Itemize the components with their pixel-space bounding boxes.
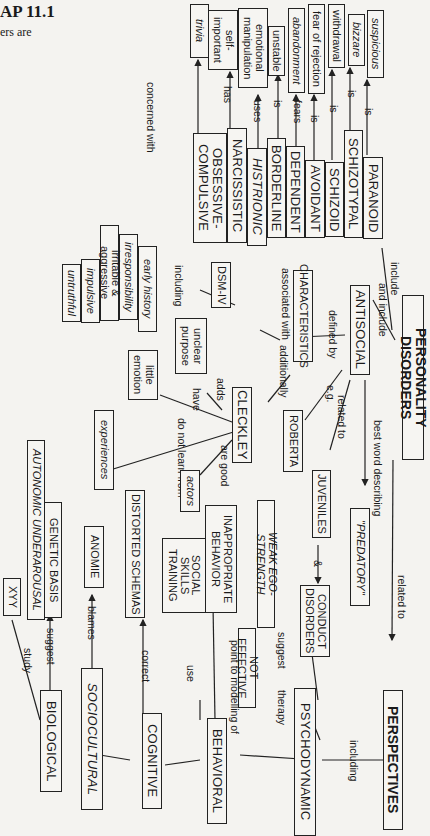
- node-perspectives: PERSPECTIVES: [383, 690, 403, 830]
- node-sociocultural: SOCIOCULTURAL: [81, 668, 103, 810]
- node-behavioral: BEHAVIORAL: [207, 718, 227, 824]
- node-untruthful: untruthful: [62, 264, 81, 322]
- node-avoidant: AVOIDANT: [305, 160, 325, 238]
- node-distorted-schemas: DISTORTED SCHEMAS: [125, 490, 145, 618]
- node-characteristics: CHARACTERISTICS: [293, 270, 313, 362]
- node-cleckley: CLECKLEY: [232, 387, 252, 463]
- node-cognitive: COGNITIVE: [142, 713, 162, 809]
- label-related-to-perspectives: related to: [396, 575, 407, 619]
- node-schizoid: SCHIZOID: [325, 162, 344, 237]
- node-dependent: DEPENDENT: [286, 146, 305, 238]
- label-including-dsm: including: [173, 265, 184, 306]
- node-trivia: trivia: [190, 4, 209, 58]
- node-dsm-iv: DSM-IV: [211, 262, 231, 308]
- label-uses: uses: [252, 100, 263, 122]
- node-antisocial: ANTISOCIAL: [350, 285, 370, 375]
- node-conduct-disorders: CONDUCT DISORDERS: [300, 585, 330, 657]
- node-bizzare: bizzare: [348, 14, 365, 66]
- label-is-schizoid: is: [328, 105, 339, 113]
- node-narcissistic: NARCISSISTIC: [227, 128, 247, 243]
- node-irritable-aggressive: irritable & aggressive: [100, 225, 119, 321]
- label-ampersand: &: [312, 560, 323, 567]
- label-and-include: and include: [377, 283, 388, 337]
- node-inappropriate-behavior: INAPPROPRIATE BEHAVIOR: [205, 505, 237, 613]
- node-juveniles: JUVENILES: [312, 470, 331, 538]
- node-experiences: experiences: [94, 410, 114, 490]
- node-impulsive: impulsive: [81, 259, 100, 323]
- label-is-borderline: is: [272, 100, 283, 108]
- label-is-avoidant: is: [309, 115, 320, 123]
- node-unclear-purpose: unclear purpose: [175, 318, 207, 374]
- label-therapy: therapy: [276, 690, 287, 725]
- node-roberta: ROBERTA: [283, 410, 303, 472]
- label-concerned-with: concerned with: [145, 82, 156, 153]
- node-anomie: ANOMIE: [84, 526, 104, 588]
- node-withdrawal: withdrawal: [328, 4, 345, 68]
- label-are-good: are good: [200, 445, 230, 486]
- node-obsessive-compulsive: OBSESSIVE-COMPULSIVE: [193, 133, 227, 243]
- label-has: has: [222, 86, 233, 103]
- node-weak-ego-strength: WEAK EGO-STRENGTH: [257, 500, 275, 628]
- node-histrionic: HISTRIONIC: [247, 148, 267, 246]
- node-emotional-manipulation: emotional manipulation: [238, 8, 268, 88]
- label-study: study: [22, 648, 33, 673]
- node-xyy: XYY: [3, 578, 21, 616]
- node-unstable: unstable: [268, 26, 285, 76]
- node-psychodynamic: PSYCHODYNAMIC: [294, 688, 316, 836]
- node-little-emotion: little emotion: [128, 350, 158, 400]
- node-personality-disorders: PERSONALITY DISORDERS: [402, 295, 424, 460]
- node-abandonment: abandonment: [288, 8, 305, 93]
- label-related-to-juveniles: related to: [336, 395, 347, 439]
- label-is-paranoid: is: [363, 108, 374, 116]
- label-defined-by: defined by: [327, 310, 338, 358]
- label-eg: e.g.: [325, 385, 336, 403]
- node-paranoid: PARANOID: [363, 157, 383, 239]
- node-early-history: early history: [138, 246, 157, 332]
- node-predatory: "PREDATORY": [350, 508, 370, 606]
- node-suspicious: suspicious: [367, 10, 384, 78]
- label-best-word-describing: best word describing: [355, 420, 383, 516]
- label-including-perspectives: including: [348, 740, 359, 781]
- label-suggest-biological: suggest: [45, 628, 56, 665]
- label-use: use: [185, 665, 196, 682]
- label-blames: blames: [86, 606, 97, 640]
- node-actors: actors: [180, 470, 200, 512]
- node-self-important: self-important: [208, 10, 238, 70]
- label-include: include: [389, 262, 400, 295]
- node-biological: BIOLOGICAL: [40, 690, 62, 792]
- node-social-skills-training: SOCIAL SKILLS TRAINING: [162, 538, 206, 613]
- label-is-schizotypal: is: [346, 90, 357, 98]
- node-fear-of-rejection: fear of rejection: [308, 4, 325, 94]
- label-associated-with: associated with: [265, 268, 291, 340]
- label-suggest-psychodynamic: suggest: [276, 632, 287, 669]
- node-autonomic-underarousal: AUTONOMIC UNDERAROUSAL: [27, 440, 45, 620]
- node-borderline: BORDERLINE: [267, 138, 286, 238]
- label-have: have: [191, 388, 202, 411]
- node-schizotypal: SCHIZOTYPAL: [344, 130, 363, 238]
- label-additionally: additionally: [278, 345, 289, 398]
- label-correct: correct: [140, 650, 151, 682]
- label-adds: adds: [215, 378, 226, 401]
- node-genetic-basis: GENETIC BASIS: [44, 502, 62, 618]
- label-fears: fears: [292, 100, 303, 123]
